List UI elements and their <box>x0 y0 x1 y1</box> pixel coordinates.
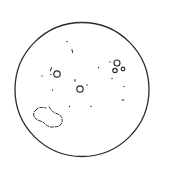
sunspot-ticks-layer <box>51 50 125 101</box>
sunspot-dot <box>90 106 91 107</box>
sunspot-dot <box>41 75 42 76</box>
sunspot-right-spot-2 <box>113 68 117 72</box>
sunspot-right-spot-3 <box>121 67 125 71</box>
sunspot-tick <box>51 68 52 72</box>
sunspot-dot <box>69 106 70 107</box>
sunspot-tick <box>72 50 73 53</box>
sunspot-dot <box>86 84 87 85</box>
sunspot-dot <box>109 61 110 62</box>
sunspot-dot <box>52 89 53 90</box>
solar-disk-outline <box>15 23 149 157</box>
sunspot-center-spot <box>77 86 83 92</box>
sunspot-dot <box>66 41 67 42</box>
solar-disk-diagram <box>0 0 183 177</box>
sunspot-rings-layer <box>54 60 125 92</box>
sunspot-dot <box>98 67 99 68</box>
faculae-region-outline <box>34 107 63 127</box>
sunspot-dot <box>111 78 112 79</box>
sunspot-right-spot-1 <box>114 60 120 66</box>
sunspot-dot <box>50 74 51 75</box>
sunspot-dot <box>123 86 124 87</box>
sunspot-left-spot <box>54 71 60 77</box>
disk-layer <box>15 23 149 157</box>
faculae-blob-layer <box>34 107 63 127</box>
